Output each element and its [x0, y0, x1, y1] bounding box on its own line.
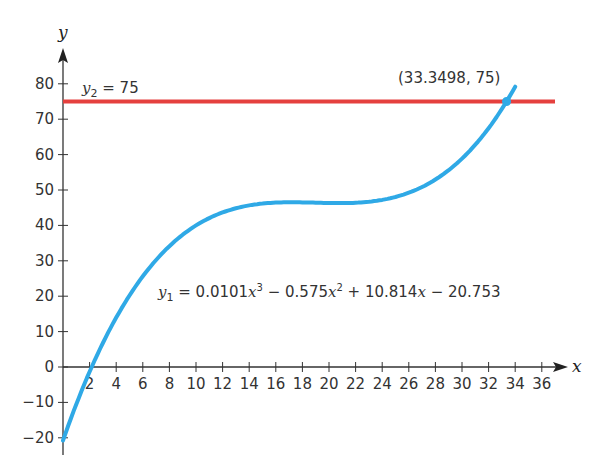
chart: 24681012141618202224262830323436−20−1001… [0, 0, 609, 476]
x-tick-label: 28 [426, 375, 445, 393]
y-tick-label: 40 [35, 216, 54, 234]
x-tick-label: 14 [240, 375, 259, 393]
x-tick-label: 24 [373, 375, 392, 393]
x-tick-label: 26 [399, 375, 418, 393]
y-tick-label: 50 [35, 181, 54, 199]
y-tick-label: 80 [35, 75, 54, 93]
x-axis-label: x [572, 356, 582, 376]
x-tick-label: 20 [319, 375, 338, 393]
x-tick-label: 34 [506, 375, 525, 393]
x-tick-label: 30 [452, 375, 471, 393]
y-tick-label: −20 [22, 429, 54, 447]
x-tick-label: 8 [165, 375, 175, 393]
x-tick-label: 12 [213, 375, 232, 393]
y2-label: y2 = 75 [81, 79, 139, 100]
x-tick-label: 10 [186, 375, 205, 393]
y1-equation-label: y1 = 0.0101x3 − 0.575x2 + 10.814x − 20.7… [157, 282, 500, 304]
y-tick-label: 10 [35, 323, 54, 341]
y1-curve [63, 87, 515, 441]
x-tick-label: 22 [346, 375, 365, 393]
intersection-label: (33.3498, 75) [398, 69, 500, 87]
axes [58, 48, 568, 455]
x-tick-label: 32 [479, 375, 498, 393]
x-tick-label: 18 [293, 375, 312, 393]
y-tick-label: 30 [35, 252, 54, 270]
y-axis-label: y [57, 22, 68, 42]
intersection-point [502, 97, 511, 106]
y-tick-label: −10 [22, 393, 54, 411]
x-tick-label: 16 [266, 375, 285, 393]
x-tick-label: 4 [111, 375, 121, 393]
y-tick-label: 70 [35, 110, 54, 128]
y-tick-label: 0 [44, 358, 54, 376]
x-tick-label: 36 [532, 375, 551, 393]
x-tick-label: 6 [138, 375, 148, 393]
y-tick-label: 20 [35, 287, 54, 305]
y-tick-label: 60 [35, 146, 54, 164]
ticks: 24681012141618202224262830323436−20−1001… [22, 75, 551, 447]
